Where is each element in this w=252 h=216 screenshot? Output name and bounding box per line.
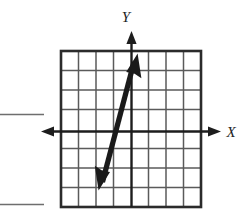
coordinate-plane-figure: Y X	[0, 0, 252, 216]
figure-container: Y X	[0, 0, 252, 216]
figure-background	[0, 0, 252, 216]
x-axis-label: X	[225, 124, 236, 140]
